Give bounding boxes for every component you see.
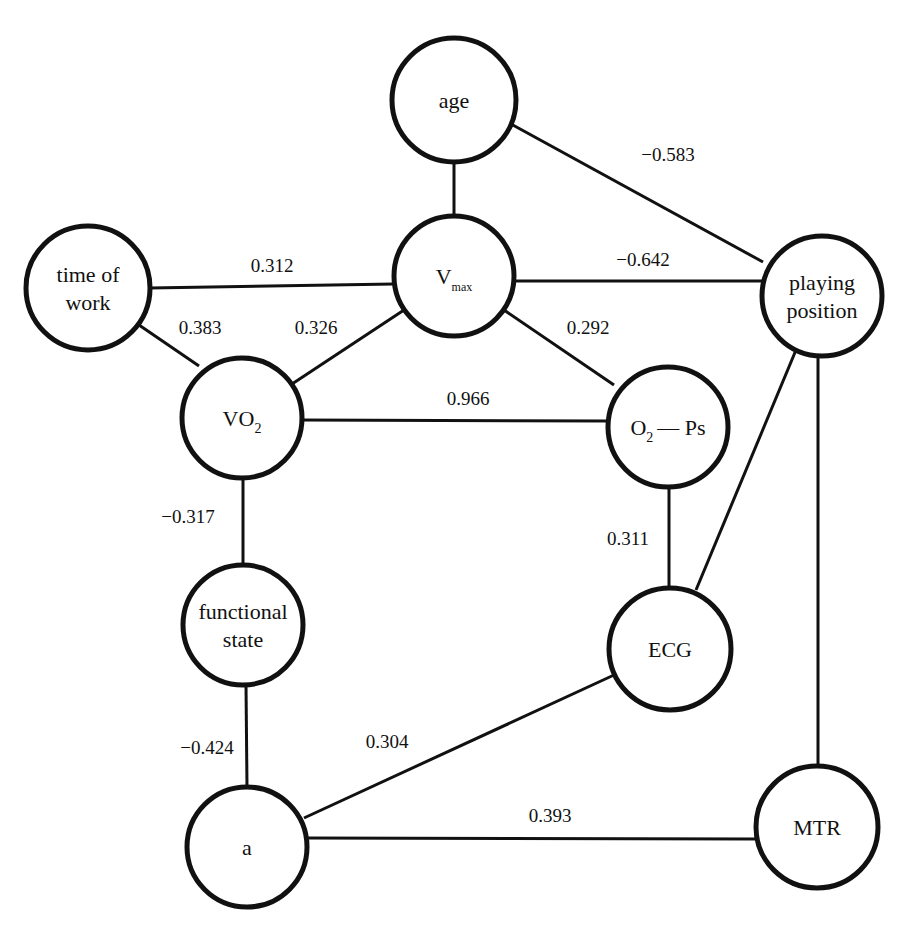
edge-vmax-playing-position: −0.642 [514,249,762,281]
edge-label: 0.304 [366,731,409,752]
node-mtr: MTR [756,766,878,888]
edge-label: 0.292 [567,317,610,338]
edge-vo2-functional-state: −0.317 [161,478,243,565]
node-label: state [223,627,263,652]
edge-line [302,420,608,421]
edge-label: 0.312 [251,255,294,276]
edge-label: 0.393 [529,805,572,826]
node-label: playing [789,270,855,295]
node-ecg: ECG [609,588,731,710]
edge-age-playing-position: −0.583 [511,124,763,262]
edge-ecg-a: 0.304 [304,675,614,818]
node-circle [183,565,303,685]
edge-time-of-work-vo2: 0.383 [139,317,221,366]
node-label: MTR [793,815,841,840]
edge-label: 0.383 [179,317,222,338]
edge-line [246,685,247,787]
edge-time-of-work-vmax: 0.312 [150,255,394,288]
node-vmax: Vmax [394,216,514,336]
edge-label: 0.966 [447,388,490,409]
node-age: age [392,38,516,162]
node-time-of-work: time ofwork [26,226,150,350]
node-circle [26,226,150,350]
node-circle [762,236,882,356]
edge-label: 0.326 [295,317,338,338]
edge-a-mtr: 0.393 [307,805,756,839]
edge-label: −0.317 [161,506,214,527]
edge-line [304,675,614,818]
node-label: work [65,290,110,315]
node-label: ECG [648,637,692,662]
node-playing-position: playingposition [762,236,882,356]
node-o2-ps: O2— Ps [608,367,728,487]
edge-functional-state-a: −0.424 [180,685,247,787]
node-label: position [787,298,858,323]
edge-label: 0.311 [607,528,649,549]
edge-line [150,284,394,288]
correlation-diagram: −0.5830.312−0.6420.3830.3260.2920.966−0.… [0,0,911,926]
edge-label: −0.424 [180,737,234,758]
node-circle [394,216,514,336]
edge-vmax-o2-ps: 0.292 [504,310,614,385]
node-vo2: VO2 [182,358,302,478]
node-label: a [242,835,252,860]
node-label: age [439,88,470,113]
node-a: a [187,787,307,907]
edge-vmax-vo2: 0.326 [292,310,404,384]
node-functional-state: functionalstate [183,565,303,685]
edge-o2-ps-ecg: 0.311 [607,487,669,588]
edge-line [511,124,763,262]
diagram-canvas: −0.5830.312−0.6420.3830.3260.2920.966−0.… [0,0,911,926]
edge-label: −0.642 [616,249,669,270]
node-label: time of [57,262,121,287]
edge-line [307,838,756,839]
edge-vo2-o2-ps: 0.966 [302,388,608,421]
edge-label: −0.583 [641,144,694,165]
node-label: functional [198,599,287,624]
